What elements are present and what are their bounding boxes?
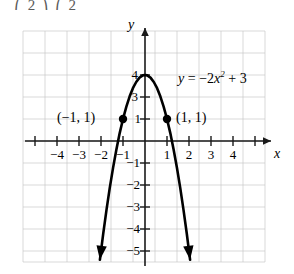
y-axis-label: y: [128, 18, 134, 31]
x-tick-label-2: 2: [182, 148, 196, 161]
x-tick-label-neg2: −2: [92, 148, 110, 161]
point-marker: [119, 115, 127, 123]
equation-plus-sign: +: [228, 71, 236, 86]
x-tick-label-neg4: −4: [48, 148, 66, 161]
y-tick-label-1: 1: [130, 112, 141, 125]
x-axis-label: x: [274, 147, 280, 160]
x-tick-label-4: 4: [226, 148, 240, 161]
parabola-arrowhead-left: [97, 245, 107, 259]
coordinate-plane: [0, 0, 294, 274]
y-tick-label-neg2: −2: [120, 178, 140, 191]
parabola-arrowhead-right: [183, 245, 193, 259]
y-tick-label-neg5: −5: [120, 244, 140, 257]
point-label-1-1: (1, 1): [176, 111, 206, 124]
point-label-neg1-1: (−1, 1): [57, 111, 95, 124]
x-tick-label-1: 1: [160, 148, 174, 161]
x-tick-label-3: 3: [204, 148, 218, 161]
y-tick-label-neg3: −3: [120, 200, 140, 213]
equation-eq-sign: =: [188, 71, 196, 86]
point-marker: [163, 115, 171, 123]
equation-label: y = −2x2 + 3: [178, 72, 247, 85]
y-tick-label-3: 3: [127, 90, 138, 103]
equation-coefficient: −2: [199, 71, 214, 86]
x-tick-label-neg3: −3: [70, 148, 88, 161]
y-tick-label-neg4: −4: [120, 222, 140, 235]
y-tick-label-4: 4: [127, 68, 138, 81]
x-tick-label-neg1: −1: [114, 148, 132, 161]
equation-exponent: 2: [220, 69, 225, 79]
x-axis: [25, 136, 271, 146]
parabola-figure: ⎛ 2 ⎞ ⎛ 2: [0, 0, 294, 274]
y-axis: [140, 28, 150, 266]
equation-constant: 3: [240, 71, 247, 86]
